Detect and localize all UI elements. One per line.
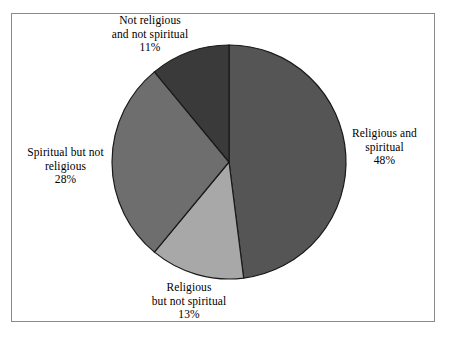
slice-label-religious-but-not-spiritual: Religious but not spiritual 13% <box>124 281 254 322</box>
slice-label-percent: 13% <box>124 308 254 322</box>
slice-label-spiritual-but-not-religious: Spiritual but not religious 28% <box>7 146 124 187</box>
slice-label-line-1: Not religious <box>86 14 214 28</box>
pie-slice <box>229 45 346 278</box>
slice-label-percent: 28% <box>7 173 124 187</box>
slice-label-line-2: religious <box>7 160 124 174</box>
slice-label-line-1: Religious <box>124 281 254 295</box>
slice-label-not-religious-and-not-spiritual: Not religious and not spiritual 11% <box>86 14 214 55</box>
slice-label-percent: 11% <box>86 41 214 55</box>
slice-label-line-2: but not spiritual <box>124 295 254 309</box>
slice-label-line-2: and not spiritual <box>86 28 214 42</box>
slice-label-line-2: spiritual <box>352 141 417 155</box>
slice-label-line-1: Religious and <box>352 127 417 141</box>
slice-label-percent: 48% <box>352 154 417 168</box>
slice-label-religious-and-spiritual: Religious and spiritual 48% <box>352 127 417 168</box>
slice-label-line-1: Spiritual but not <box>7 146 124 160</box>
